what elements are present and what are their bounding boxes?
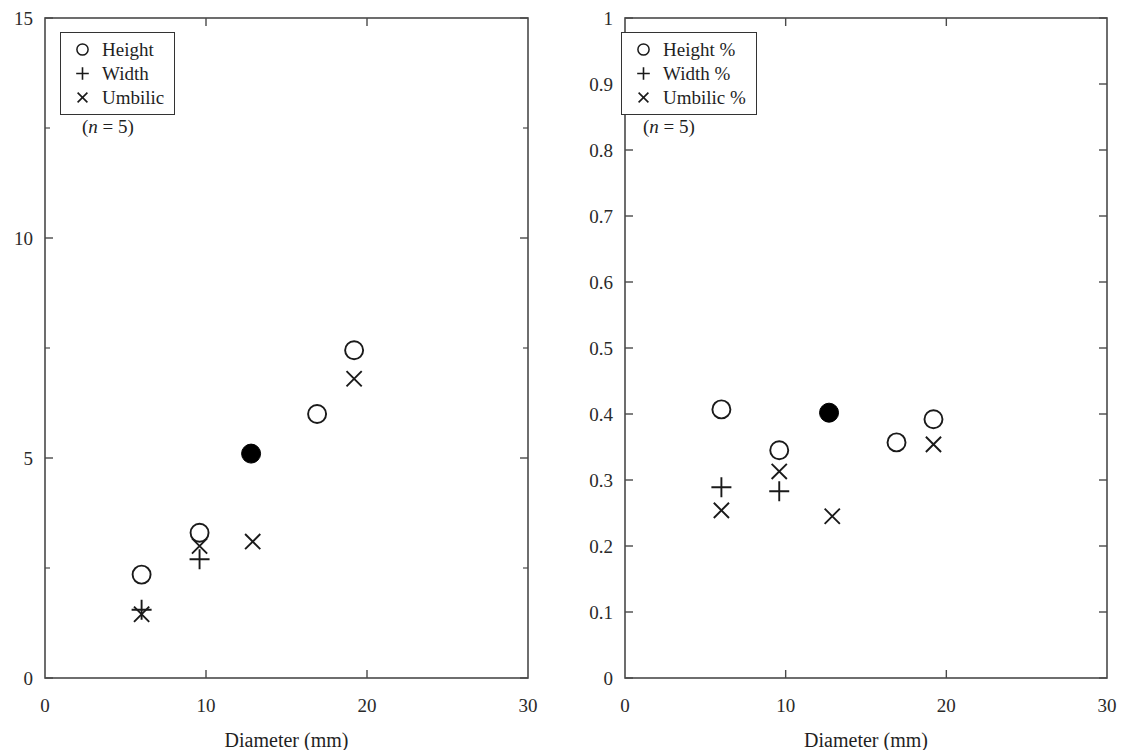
x-tick-label: 0: [40, 696, 50, 715]
data-point-filled-circle: [820, 403, 839, 422]
data-point-circle: [133, 566, 151, 584]
legend-label-height: Height: [95, 40, 154, 59]
data-point-circle: [770, 441, 788, 459]
data-point-circle: [345, 341, 363, 359]
x-axis-title-right: Diameter (mm): [804, 730, 928, 750]
x-tick-label: 30: [1098, 696, 1117, 715]
y-tick-label: 0: [0, 669, 33, 688]
cross-marker-icon: [630, 90, 656, 105]
x-tick-label: 0: [620, 696, 630, 715]
data-point-circle: [924, 410, 942, 428]
data-point-cross: [772, 464, 787, 479]
y-tick-label: 0.1: [563, 603, 613, 622]
scatter-figure: Height Width Umbilic (n = 5) Diameter (m…: [0, 0, 1126, 750]
sample-size-note-left: (n = 5): [82, 117, 134, 136]
data-point-cross: [347, 371, 362, 386]
legend-right: Height % Width % Umbilic %: [621, 32, 757, 115]
data-point-plus: [132, 600, 152, 620]
legend-label-height-pct: Height %: [656, 40, 735, 59]
circle-marker-icon: [630, 42, 656, 57]
x-tick-label: 10: [197, 696, 216, 715]
chart-panel-left: Height Width Umbilic (n = 5) Diameter (m…: [0, 0, 563, 750]
y-tick-label: 0.9: [563, 75, 613, 94]
sample-size-note-right: (n = 5): [643, 117, 695, 136]
circle-marker-icon: [69, 42, 95, 57]
x-tick-label: 20: [937, 696, 956, 715]
data-point-filled-circle: [242, 444, 261, 463]
plus-marker-icon: [630, 66, 656, 81]
y-tick-label: 0.7: [563, 207, 613, 226]
legend-label-width-pct: Width %: [656, 64, 730, 83]
y-tick-label: 0: [563, 669, 613, 688]
data-point-plus: [769, 481, 789, 501]
data-point-circle: [308, 405, 326, 423]
y-tick-label: 5: [0, 449, 33, 468]
y-tick-label: 10: [0, 229, 33, 248]
legend-left: Height Width Umbilic: [60, 32, 175, 115]
plus-marker-icon: [69, 66, 95, 81]
legend-item-height-pct: Height %: [630, 37, 746, 61]
legend-item-width-pct: Width %: [630, 61, 746, 85]
x-tick-label: 30: [519, 696, 538, 715]
cross-marker-icon: [69, 90, 95, 105]
y-tick-label: 0.5: [563, 339, 613, 358]
x-axis-title-left: Diameter (mm): [225, 730, 349, 750]
data-point-cross: [926, 437, 941, 452]
data-point-cross: [714, 503, 729, 518]
data-point-circle: [712, 400, 730, 418]
y-tick-label: 0.2: [563, 537, 613, 556]
x-tick-label: 20: [358, 696, 377, 715]
chart-panel-right: Height % Width % Umbilic % (n = 5) Diame…: [563, 0, 1126, 750]
y-tick-label: 1: [563, 9, 613, 28]
y-tick-label: 0.6: [563, 273, 613, 292]
legend-item-umbilic-pct: Umbilic %: [630, 85, 746, 109]
legend-label-width: Width: [95, 64, 149, 83]
data-point-circle: [888, 433, 906, 451]
y-tick-label: 0.8: [563, 141, 613, 160]
legend-item-umbilic: Umbilic: [69, 85, 164, 109]
y-tick-label: 0.4: [563, 405, 613, 424]
legend-label-umbilic: Umbilic: [95, 88, 164, 107]
data-point-cross: [825, 509, 840, 524]
y-tick-label: 15: [0, 9, 33, 28]
legend-item-width: Width: [69, 61, 164, 85]
data-point-cross: [245, 534, 260, 549]
x-tick-label: 10: [776, 696, 795, 715]
legend-label-umbilic-pct: Umbilic %: [656, 88, 746, 107]
data-point-plus: [711, 477, 731, 497]
legend-item-height: Height: [69, 37, 164, 61]
y-tick-label: 0.3: [563, 471, 613, 490]
